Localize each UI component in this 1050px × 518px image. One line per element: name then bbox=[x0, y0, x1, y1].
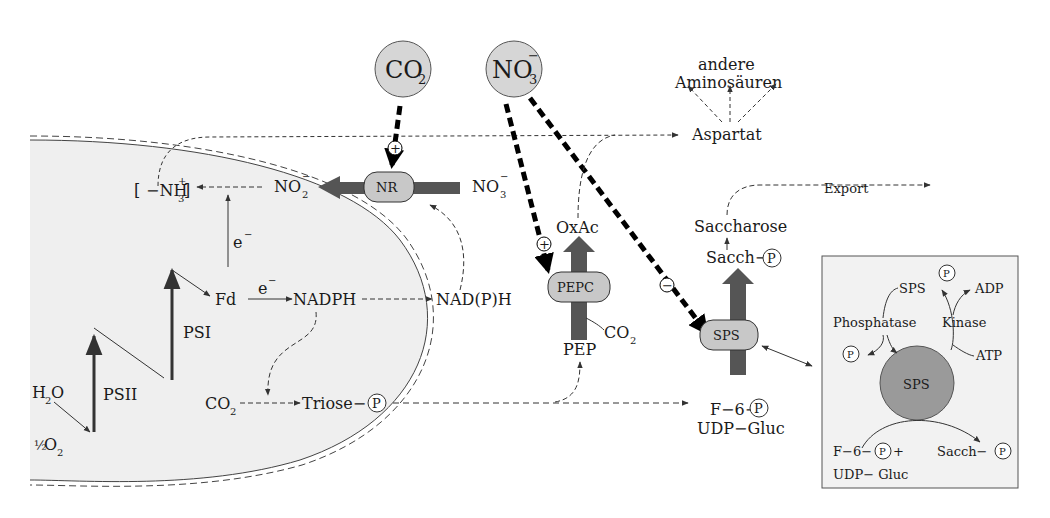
svg-text:ADP: ADP bbox=[974, 281, 1004, 296]
svg-text:ATP: ATP bbox=[975, 348, 1002, 363]
svg-text:O: O bbox=[44, 435, 57, 454]
oxac-label: OxAc bbox=[556, 218, 599, 237]
svg-text:Sacch−: Sacch− bbox=[706, 248, 768, 267]
svg-text:PEPC: PEPC bbox=[557, 280, 594, 295]
svg-text:e: e bbox=[233, 233, 242, 252]
svg-text:Sacch−: Sacch− bbox=[937, 444, 987, 459]
svg-text:]: ] bbox=[184, 181, 190, 200]
svg-text:2: 2 bbox=[230, 406, 236, 417]
svg-text:Kinase: Kinase bbox=[942, 315, 987, 330]
no3-label: NO 3 − bbox=[472, 171, 508, 200]
svg-text:2: 2 bbox=[57, 447, 63, 458]
saccharose-label: Saccharose bbox=[694, 217, 787, 236]
psii-label: PSII bbox=[103, 385, 137, 404]
svg-text:e: e bbox=[258, 279, 267, 298]
svg-text:SPS: SPS bbox=[903, 377, 930, 392]
svg-text:2: 2 bbox=[302, 189, 308, 200]
triose-label: Triose− bbox=[302, 394, 366, 413]
pep-label: PEP bbox=[563, 340, 596, 359]
svg-text:H: H bbox=[32, 383, 46, 402]
nitrate-sucrose-regulation-diagram: CO 2 NO 3 − andere Aminosäuren Aspartat … bbox=[0, 0, 1050, 518]
svg-text:3: 3 bbox=[529, 72, 537, 87]
svg-text:P: P bbox=[999, 446, 1006, 457]
svg-text:+: + bbox=[390, 141, 401, 156]
svg-text:CO: CO bbox=[205, 394, 230, 413]
nadph-out-label: NAD(P)H bbox=[436, 290, 512, 309]
svg-text:O: O bbox=[51, 383, 64, 402]
svg-text:P: P bbox=[754, 401, 763, 416]
udp-gluc-label: UDP−Gluc bbox=[697, 419, 785, 438]
sps-enzyme: SPS bbox=[700, 268, 758, 375]
svg-text:−: − bbox=[244, 229, 252, 240]
svg-text:−: − bbox=[302, 171, 310, 182]
svg-text:P: P bbox=[943, 268, 950, 279]
svg-text:NO: NO bbox=[472, 177, 499, 196]
svg-text:−: − bbox=[500, 171, 508, 182]
svg-text:CO: CO bbox=[604, 323, 629, 342]
aspartat-label: Aspartat bbox=[691, 125, 762, 144]
svg-text:P: P bbox=[879, 446, 886, 457]
svg-text:F−6−: F−6− bbox=[833, 444, 872, 459]
svg-text:−: − bbox=[528, 48, 539, 63]
svg-text:2: 2 bbox=[418, 72, 426, 87]
svg-text:Phosphatase: Phosphatase bbox=[833, 315, 917, 330]
svg-text:3: 3 bbox=[500, 189, 506, 200]
svg-text:SPS: SPS bbox=[713, 328, 740, 343]
nh3-bracket-left: [ bbox=[134, 181, 140, 200]
no3-molecule: NO 3 − bbox=[486, 41, 542, 97]
svg-text:−: − bbox=[268, 275, 276, 286]
pepc-enzyme: PEPC bbox=[548, 236, 610, 340]
svg-text:+: + bbox=[539, 237, 550, 252]
svg-text:−: − bbox=[662, 278, 673, 293]
nr-enzyme: NR bbox=[318, 172, 460, 202]
svg-text:NO: NO bbox=[274, 177, 301, 196]
svg-text:2: 2 bbox=[630, 335, 636, 346]
andere-label: andere bbox=[698, 55, 755, 74]
svg-text:NR: NR bbox=[376, 180, 398, 195]
svg-text:P: P bbox=[372, 396, 381, 411]
svg-text:UDP− Gluc: UDP− Gluc bbox=[833, 467, 908, 482]
aminosaeuren-label: Aminosäuren bbox=[674, 73, 782, 92]
svg-text:SPS: SPS bbox=[899, 281, 926, 296]
svg-text:NO: NO bbox=[492, 56, 533, 84]
svg-text:+: + bbox=[893, 444, 904, 459]
co2-molecule: CO 2 bbox=[375, 41, 431, 97]
svg-text:P: P bbox=[847, 349, 854, 360]
nadph-label: NADPH bbox=[293, 290, 356, 309]
sps-regulation-inset: SPS SPS P ADP Phosphatase Kinase P ATP F… bbox=[822, 256, 1018, 488]
psi-label: PSI bbox=[183, 323, 211, 342]
export-label: Export bbox=[824, 181, 869, 196]
svg-text:P: P bbox=[767, 251, 776, 266]
fd-label: Fd bbox=[215, 290, 236, 309]
